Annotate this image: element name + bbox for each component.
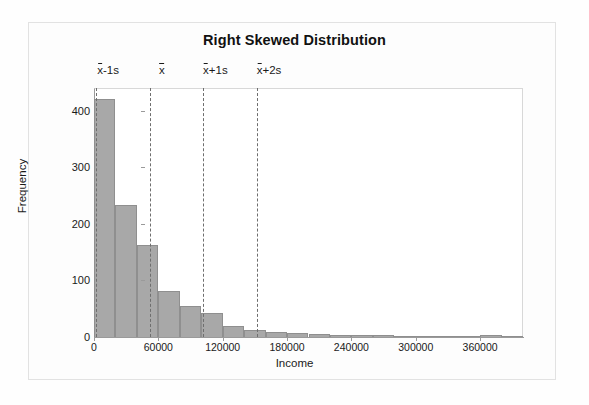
histogram-bar: [180, 306, 201, 337]
annotation-label-mean: x: [159, 64, 165, 76]
x-axis-tick-mark: [158, 337, 159, 341]
y-axis-tick-label: 0: [56, 331, 90, 343]
histogram-bar: [158, 291, 179, 337]
histogram-bar: [459, 336, 480, 337]
x-axis-tick-mark: [480, 337, 481, 341]
y-axis-tick-mark: [141, 224, 145, 225]
histogram-bar: [244, 330, 265, 337]
histogram-bar: [437, 336, 458, 337]
annotation-label-mean-plus-2s: x+2s: [257, 64, 282, 76]
y-axis-title: Frequency: [16, 116, 28, 256]
annotation-line-mean-minus-1s: [96, 88, 97, 337]
x-axis-tick-label: 120000: [205, 341, 240, 353]
x-bar-symbol: x: [159, 64, 165, 76]
x-axis-tick-mark: [351, 337, 352, 341]
y-axis-tick-mark: [141, 111, 145, 112]
x-bar-symbol: x: [97, 64, 103, 76]
y-axis-tick-label: 200: [56, 218, 90, 230]
y-axis-tick-mark: [141, 280, 145, 281]
annotation-line-mean-plus-1s: [203, 88, 204, 337]
histogram-bar: [266, 332, 287, 337]
histogram-bar: [330, 335, 351, 337]
histogram-bar: [201, 313, 222, 337]
x-axis-tick-label: 180000: [270, 341, 305, 353]
histogram-bar: [94, 99, 115, 337]
histogram-bar: [416, 336, 437, 337]
histogram-bars: [94, 88, 523, 337]
y-axis-tick-label: 400: [56, 105, 90, 117]
x-axis-tick-label: 0: [91, 341, 97, 353]
y-axis-tick-label: 100: [56, 274, 90, 286]
histogram-bar: [394, 336, 415, 337]
annotation-line-mean-plus-2s: [257, 88, 258, 337]
x-axis-tick-label: 300000: [398, 341, 433, 353]
chart-figure: Right Skewed Distribution 0100200300400 …: [0, 0, 589, 405]
x-axis-tick-label: 240000: [334, 341, 369, 353]
x-bar-symbol: x: [203, 64, 209, 76]
histogram-bar: [223, 326, 244, 337]
histogram-bar: [137, 245, 158, 337]
annotation-line-mean: [150, 88, 151, 337]
x-axis-tick-label: 360000: [463, 341, 498, 353]
annotation-label-mean-minus-1s: x-1s: [97, 64, 119, 76]
histogram-bar: [309, 334, 330, 337]
histogram-bar: [480, 335, 501, 337]
x-axis-tick-mark: [223, 337, 224, 341]
histogram-bar: [502, 336, 523, 337]
histogram-bar: [287, 333, 308, 337]
x-axis-tick-label: 60000: [144, 341, 173, 353]
histogram-bar: [115, 205, 136, 337]
x-bar-symbol: x: [257, 64, 263, 76]
y-axis-ticks: 0100200300400: [52, 0, 90, 405]
histogram-bar: [373, 335, 394, 337]
y-axis-tick-mark: [141, 167, 145, 168]
x-axis-tick-mark: [416, 337, 417, 341]
x-axis-tick-mark: [287, 337, 288, 341]
y-axis-tick-mark: [141, 337, 145, 338]
annotation-label-mean-plus-1s: x+1s: [203, 64, 228, 76]
x-axis-tick-mark: [94, 337, 95, 341]
x-axis-title: Income: [0, 357, 589, 369]
histogram-bar: [351, 335, 372, 337]
y-axis-tick-label: 300: [56, 161, 90, 173]
